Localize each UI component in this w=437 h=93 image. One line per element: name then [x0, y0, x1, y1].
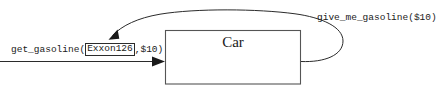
incoming-message-label-suffix: ,$10)	[135, 44, 164, 55]
return-message-arrowhead	[109, 30, 120, 40]
class-box-label-car: Car	[165, 34, 301, 51]
object-reference-box-exxon126[interactable]: Exxon126	[85, 43, 135, 56]
diagram-canvas: Car get_gasoline(Exxon126,$10) give_me_g…	[0, 0, 437, 93]
incoming-message-label-prefix: get_gasoline(	[11, 44, 85, 55]
incoming-message-arrowhead	[152, 57, 165, 67]
return-message-label: give_me_gasoline($10)	[317, 12, 437, 23]
incoming-message-label: get_gasoline(Exxon126,$10)	[11, 43, 163, 56]
